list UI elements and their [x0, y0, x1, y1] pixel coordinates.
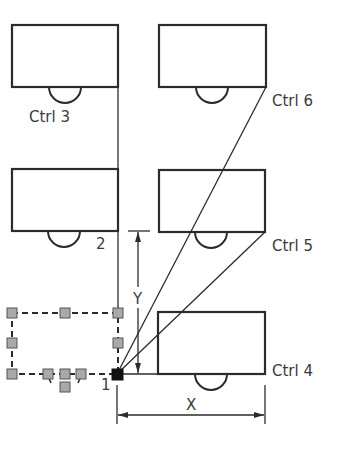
grip-icon[interactable] [60, 308, 70, 318]
base-point-grip-icon[interactable] [112, 369, 123, 380]
grip-icon[interactable] [60, 369, 70, 379]
grip-icon[interactable] [7, 369, 17, 379]
label-ctrl5: Ctrl 5 [272, 237, 313, 255]
copy-array-diagram: Ctrl 3 Ctrl 6 2 Ctrl 5 Ctrl 4 1 Y X [0, 0, 348, 450]
block-ctrl4[interactable] [158, 312, 265, 390]
grip-icon[interactable] [113, 338, 123, 348]
block-ctrl5[interactable] [159, 170, 265, 248]
label-ctrl4: Ctrl 4 [272, 362, 313, 380]
grip-icon[interactable] [76, 369, 86, 379]
grip-icon[interactable] [7, 338, 17, 348]
label-point1: 1 [101, 376, 111, 394]
label-point2: 2 [96, 235, 106, 253]
label-dim-x: X [186, 396, 196, 414]
grip-icon[interactable] [60, 382, 70, 392]
grip-icon[interactable] [113, 308, 123, 318]
grip-icon[interactable] [7, 308, 17, 318]
label-dim-y: Y [132, 290, 143, 308]
block-ctrl6[interactable] [159, 25, 266, 103]
block-ctrl3[interactable] [12, 25, 118, 103]
label-ctrl3: Ctrl 3 [29, 108, 70, 126]
label-ctrl6: Ctrl 6 [272, 92, 313, 110]
grip-icon[interactable] [43, 369, 53, 379]
